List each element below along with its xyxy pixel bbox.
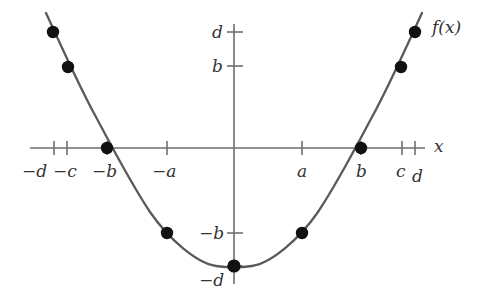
data-point xyxy=(101,142,113,154)
y-axis-ticks xyxy=(227,32,243,266)
x-tick-label-neg-c: −c xyxy=(53,163,77,180)
x-tick-label-neg-a: −a xyxy=(152,163,176,180)
data-point xyxy=(47,26,59,38)
x-tick-label-neg-d: −d xyxy=(22,163,47,180)
x-tick-label-d: d xyxy=(412,168,423,185)
x-tick-label-a: a xyxy=(297,163,307,180)
y-tick-label-neg-b: −b xyxy=(199,225,224,242)
data-point xyxy=(161,227,173,239)
y-tick-label-d: d xyxy=(212,24,223,41)
y-tick-label-neg-d: −d xyxy=(199,272,224,289)
data-point xyxy=(296,227,308,239)
data-point xyxy=(409,26,421,38)
x-tick-label-neg-b: −b xyxy=(92,163,117,180)
x-tick-label-c: c xyxy=(396,163,406,180)
function-label: f(x) xyxy=(432,19,461,36)
x-axis-label: x xyxy=(434,138,444,155)
figure-canvas: −d −c −b −a a b c d d b −b −d x f(x) xyxy=(0,0,488,303)
data-point xyxy=(355,142,367,154)
y-tick-label-b: b xyxy=(212,58,223,75)
data-point xyxy=(62,61,74,73)
data-point xyxy=(395,61,407,73)
x-tick-label-b: b xyxy=(356,163,367,180)
data-point xyxy=(227,259,240,272)
parabola-plot-svg xyxy=(0,0,488,303)
